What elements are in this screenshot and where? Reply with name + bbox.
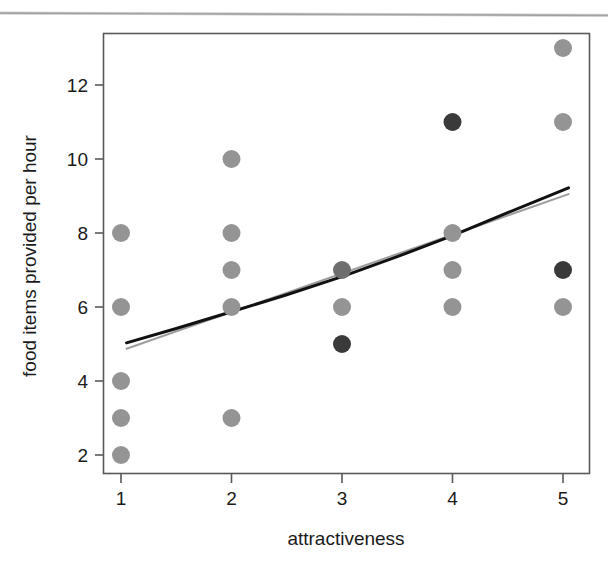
data-point bbox=[554, 261, 572, 279]
data-point bbox=[554, 39, 572, 57]
y-axis-title: food items provided per hour bbox=[19, 134, 40, 377]
data-point bbox=[444, 298, 462, 316]
x-tick-label: 1 bbox=[116, 488, 127, 509]
x-tick-label: 5 bbox=[558, 488, 569, 509]
plot-frame bbox=[104, 34, 590, 474]
data-point bbox=[444, 261, 462, 279]
data-point bbox=[554, 298, 572, 316]
data-point bbox=[223, 409, 241, 427]
x-tick-label: 3 bbox=[337, 488, 348, 509]
y-tick-label: 4 bbox=[77, 371, 88, 392]
x-tick-label: 2 bbox=[226, 488, 237, 509]
data-point bbox=[333, 261, 351, 279]
data-point bbox=[333, 335, 351, 353]
data-point bbox=[112, 446, 130, 464]
data-point bbox=[112, 372, 130, 390]
y-tick-label: 2 bbox=[77, 445, 88, 466]
y-tick-label: 12 bbox=[67, 75, 88, 96]
data-point bbox=[223, 261, 241, 279]
data-point bbox=[554, 113, 572, 131]
data-point bbox=[223, 298, 241, 316]
y-tick-label: 6 bbox=[77, 297, 88, 318]
data-point bbox=[112, 298, 130, 316]
figure-container: 24681012 12345 attractiveness food items… bbox=[0, 0, 608, 573]
data-point bbox=[112, 224, 130, 242]
data-point bbox=[112, 409, 130, 427]
data-point bbox=[223, 150, 241, 168]
y-axis-ticks: 24681012 bbox=[67, 75, 104, 466]
y-tick-label: 8 bbox=[77, 223, 88, 244]
data-point bbox=[333, 298, 351, 316]
data-point bbox=[223, 224, 241, 242]
data-point bbox=[444, 224, 462, 242]
x-axis-title: attractiveness bbox=[287, 528, 404, 549]
x-tick-label: 4 bbox=[447, 488, 458, 509]
y-tick-label: 10 bbox=[67, 149, 88, 170]
scatter-plot: 24681012 12345 attractiveness food items… bbox=[0, 0, 608, 573]
x-axis-ticks: 12345 bbox=[116, 474, 569, 510]
data-point bbox=[444, 113, 462, 131]
